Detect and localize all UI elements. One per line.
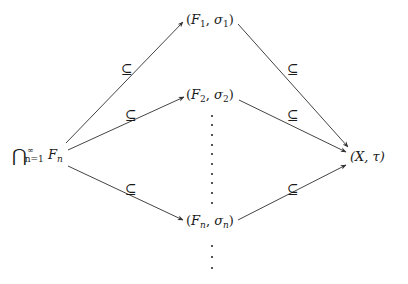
sigma: σ: [214, 213, 223, 228]
node-f1-sigma1: (F1, σ1): [186, 13, 234, 29]
paren-close: ): [229, 213, 234, 228]
set-f: F: [191, 12, 200, 27]
edge-label-f2-target: ⊆: [287, 108, 299, 122]
set-f: F: [191, 87, 200, 102]
arrows-layer: [0, 0, 408, 284]
sigma: σ: [214, 12, 223, 27]
set-f: F: [48, 147, 57, 162]
comma: ,: [206, 12, 214, 27]
edge-label-source-fn: ⊆: [125, 182, 137, 196]
edge-label-source-f2: ⊆: [125, 108, 137, 122]
comma: ,: [206, 87, 214, 102]
node-intersection-fn: ⋂∞n=1 Fn: [12, 147, 63, 165]
node-f2-sigma2: (F2, σ2): [186, 88, 234, 104]
paren-close: ): [229, 87, 234, 102]
edge-label-source-f1: ⊆: [121, 62, 133, 76]
node-x-tau: (X, τ): [350, 150, 385, 163]
diagram-canvas: ⋂∞n=1 Fn (F1, σ1) (F2, σ2) (Fn, σn) (X, …: [0, 0, 408, 284]
node-fn-sigman: (Fn, σn): [186, 214, 234, 230]
set-f: F: [191, 213, 200, 228]
paren-close: ): [229, 12, 234, 27]
arrow-source-to-f1: [66, 22, 183, 143]
subscript-n-equals-1: n=1: [25, 154, 44, 164]
edge-label-f1-target: ⊆: [287, 62, 299, 76]
edge-label-fn-target: ⊆: [287, 182, 299, 196]
arrow-f1-to-target: [238, 24, 348, 147]
comma: ,: [206, 213, 214, 228]
sigma: σ: [214, 87, 223, 102]
subscript-n: n: [57, 154, 63, 164]
